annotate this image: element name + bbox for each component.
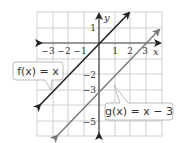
y-tick-label: −3 xyxy=(83,85,97,95)
y-tick-labels: 1 −2 −3 −5 xyxy=(83,23,97,127)
x-tick-label: 2 xyxy=(127,46,133,56)
x-tick-label: 1 xyxy=(112,46,118,56)
x-tick-label: −1 xyxy=(73,46,86,56)
y-axis-label: y xyxy=(103,12,110,23)
y-tick-label: 1 xyxy=(90,23,96,33)
x-axis-label: x xyxy=(153,46,159,57)
x-tick-label: −3 xyxy=(41,46,55,56)
x-tick-label: −2 xyxy=(57,46,70,56)
y-tick-label: −2 xyxy=(83,70,96,80)
coordinate-plane: −3 −2 −1 1 2 3 1 −2 −3 −5 y x f(x) = x g… xyxy=(0,0,183,143)
y-tick-label: −5 xyxy=(83,117,97,127)
g-label: g(x) = x − 3 xyxy=(105,105,173,118)
f-label: f(x) = x xyxy=(17,65,59,78)
callout-f: f(x) = x xyxy=(13,62,63,90)
